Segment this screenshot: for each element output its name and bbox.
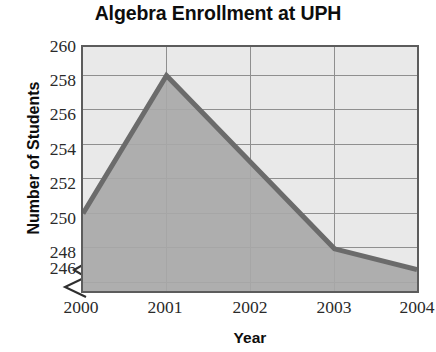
- plot-area: [81, 45, 419, 293]
- y-tick-label: 260: [30, 36, 76, 57]
- chart-figure: Algebra Enrollment at UPH Number of Stud…: [0, 0, 436, 352]
- y-tick-label: 250: [30, 208, 76, 229]
- x-axis-label: Year: [81, 329, 419, 347]
- x-tick-label: 2004: [380, 297, 436, 318]
- y-tick-label: 256: [30, 104, 76, 125]
- x-tick-label: 2000: [44, 297, 118, 318]
- y-tick-label: 252: [30, 173, 76, 194]
- area-chart-svg: [83, 47, 417, 291]
- y-tick-label: 254: [30, 139, 76, 160]
- x-tick-label: 2002: [213, 297, 287, 318]
- x-tick-label: 2001: [128, 297, 202, 318]
- x-tick-label: 2003: [297, 297, 371, 318]
- chart-title: Algebra Enrollment at UPH: [0, 2, 436, 25]
- y-tick-label: 258: [30, 70, 76, 91]
